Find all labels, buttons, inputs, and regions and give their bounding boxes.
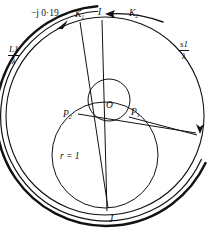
line-P1-to-rim <box>129 117 197 135</box>
label-unit-circle: r = 1 <box>60 152 80 162</box>
label-point-K1: K1 <box>75 10 84 21</box>
diagram-canvas <box>0 0 210 232</box>
label-center-O: O <box>106 101 113 111</box>
label-admittance-value: −j 0·19 <box>31 9 59 19</box>
label-arc-K2: K2 <box>129 9 138 20</box>
label-point-P1: P1 <box>131 108 140 119</box>
diagram-figure: −j 0·19 K1 I K2 O P1 P2 r = 1 J L1 λ s1 … <box>0 0 210 232</box>
label-point-J: J <box>109 215 113 225</box>
label-fraction-L1-over-lambda: L1 λ <box>8 45 20 66</box>
label-fraction-s1-over-lambda: s1 λ <box>179 40 189 61</box>
label-point-I: I <box>98 8 101 18</box>
label-point-P2: P2 <box>63 110 72 121</box>
